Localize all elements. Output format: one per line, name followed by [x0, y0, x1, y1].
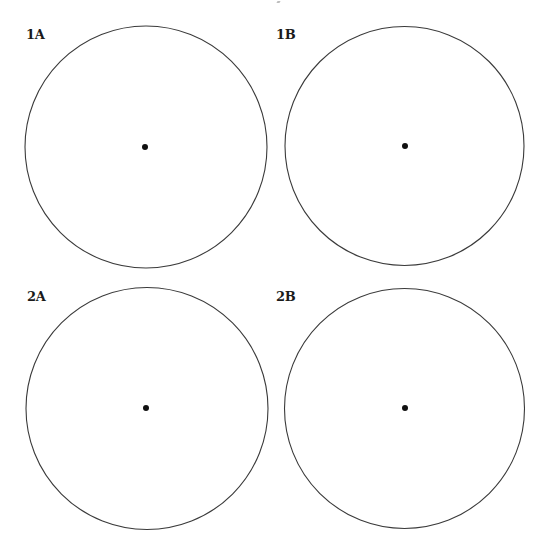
center-dot-2a [143, 405, 149, 411]
center-dot-1b [402, 143, 408, 149]
center-dot-1a [142, 144, 148, 150]
panel-label-1b: 1B [276, 28, 295, 41]
circles-diagram [0, 0, 548, 552]
center-dot-2b [402, 405, 408, 411]
panel-1a [25, 26, 267, 268]
figure-canvas: 1A 1B 2A 2B [0, 0, 548, 552]
panel-2b [285, 289, 525, 529]
panel-1b [285, 27, 524, 266]
panel-label-2a: 2A [27, 290, 46, 303]
panel-label-1a: 1A [26, 28, 45, 41]
panel-2a [26, 288, 268, 530]
panel-label-2b: 2B [276, 290, 295, 303]
